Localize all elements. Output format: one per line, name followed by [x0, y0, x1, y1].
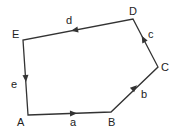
edge-label-a: a [70, 117, 76, 128]
edge-label-e: e [11, 79, 17, 90]
edge-label-b: b [141, 89, 147, 100]
edge-label-c: c [148, 29, 154, 40]
arrow-e-icon [23, 75, 29, 82]
vertex-label-b: B [108, 117, 115, 128]
vertex-label-a: A [17, 117, 24, 128]
polygon-outline [23, 19, 158, 115]
edge-label-d: d [66, 15, 72, 26]
arrow-b-icon [130, 83, 139, 92]
arrow-c-icon [139, 34, 148, 43]
vector-polygon-diagram [0, 0, 177, 131]
vertex-label-c: C [161, 62, 169, 73]
vertex-label-e: E [12, 29, 19, 40]
vertex-label-d: D [129, 6, 137, 17]
